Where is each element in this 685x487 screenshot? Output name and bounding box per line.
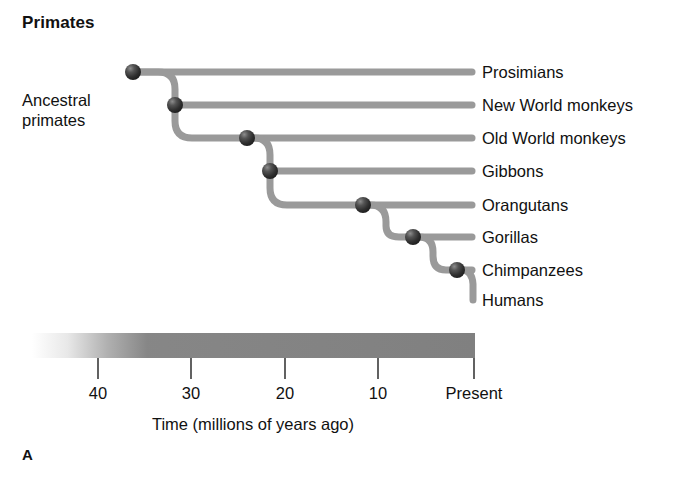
branch-node4-to-node5 [270,171,363,205]
axis-tick-label-10: 10 [369,385,387,402]
axis-tick-label-20: 20 [276,385,294,402]
branch-node6-to-node7 [413,237,457,270]
tip-label-gibbons: Gibbons [482,163,543,180]
node-newworld-split [167,97,183,113]
node-chimp-human-split [449,262,465,278]
tip-label-old-world-monkeys: Old World monkeys [482,130,626,147]
node-orangutans-split [355,197,371,213]
tip-label-prosimians: Prosimians [482,64,564,81]
node-gibbons-split [262,163,278,179]
page-title: Primates [22,14,95,31]
time-gradient-bar [32,333,475,358]
axis-tick-marks [98,358,474,379]
phylogenetic-tree-graphic [0,0,685,487]
branch-node2-to-node3 [175,105,247,138]
axis-tick-label-30: 30 [182,385,200,402]
node-gorillas-split [405,229,421,245]
tip-label-humans: Humans [482,292,543,309]
tree-branches [32,72,473,300]
tip-label-chimpanzees: Chimpanzees [482,262,583,279]
tip-label-new-world-monkeys: New World monkeys [482,97,633,114]
axis-tick-label-present: Present [446,385,503,402]
node-prosimians-split [125,64,141,80]
axis-title: Time (millions of years ago) [152,416,354,433]
tip-label-orangutans: Orangutans [482,197,568,214]
time-axis [32,333,475,379]
branch-node1-to-node2 [133,72,175,105]
node-oldworld-split [239,130,255,146]
panel-letter: A [22,447,33,462]
ancestral-primates-label: Ancestral primates [22,90,91,130]
primates-phylogeny-figure: Primates Ancestral primates Prosimians N… [0,0,685,487]
axis-tick-label-40: 40 [89,385,107,402]
branch-node5-to-node6 [363,205,413,237]
tip-label-gorillas: Gorillas [482,229,538,246]
